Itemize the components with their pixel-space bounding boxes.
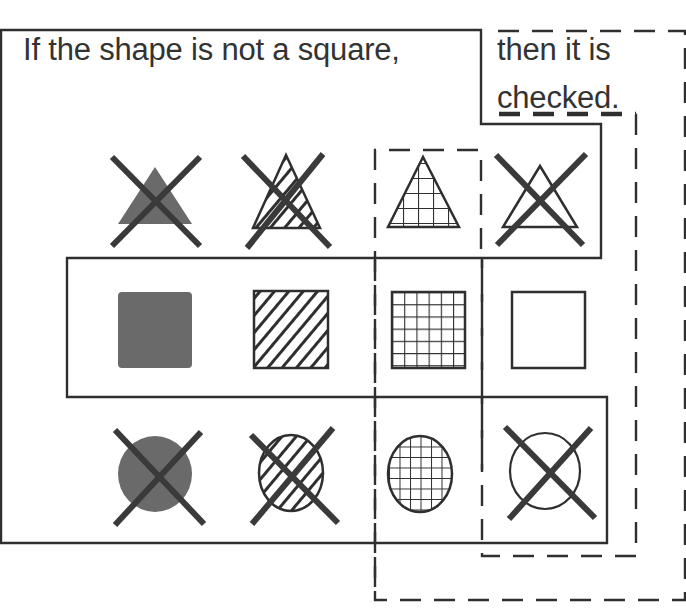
cell-triangle-checked [388,157,459,227]
square-empty-shape [512,292,585,368]
cell-triangle-empty [496,154,586,245]
triangle-checked-shape [388,157,459,227]
caption-consequence-line1: then it is [497,34,610,65]
cell-circle-striped [251,428,338,524]
cell-circle-empty [505,427,595,519]
circle-checked-shape [388,436,452,512]
cell-triangle-striped [243,150,330,248]
cell-circle-checked [388,436,452,512]
cell-square-empty [512,292,585,368]
square-solid-shape [118,292,192,368]
cell-square-solid [118,292,192,368]
cell-triangle-solid [112,157,200,246]
cell-square-checked [392,292,465,368]
caption-consequence-line2: checked. [497,82,619,113]
caption-condition: If the shape is not a square, [23,34,400,65]
cell-circle-solid [115,430,204,525]
cross-mark-icon [505,427,595,519]
square-checked-shape [392,292,465,368]
cell-square-striped [254,291,328,368]
